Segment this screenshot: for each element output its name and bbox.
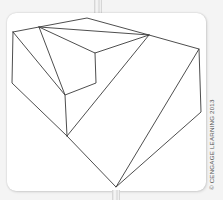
- inner-vertical: [39, 27, 96, 95]
- center-diagonal: [67, 35, 149, 136]
- left-diagonal: [13, 32, 67, 136]
- geometric-solid-sketch: [0, 0, 223, 200]
- right-diagonal: [116, 49, 199, 187]
- outline: [12, 18, 201, 187]
- copyright-credit: © CENGAGE LEARNING 2013: [208, 99, 215, 190]
- top-face-edge: [39, 27, 149, 35]
- binder-ring-bottom: [112, 190, 120, 200]
